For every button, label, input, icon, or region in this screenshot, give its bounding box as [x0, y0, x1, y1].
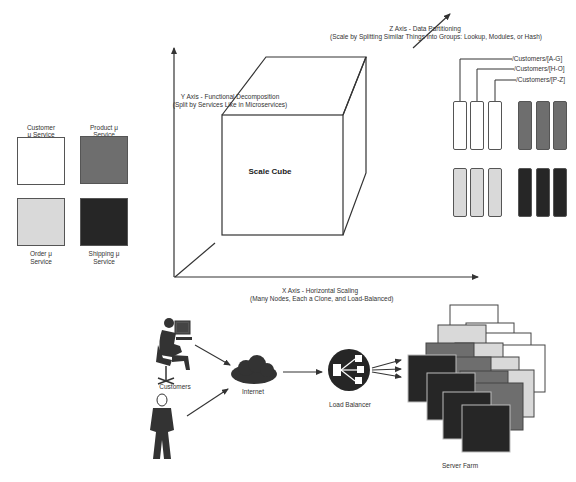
partition-label-a-g: /Customers/[A-G] [512, 55, 562, 63]
partition-bar-white-2 [470, 101, 484, 150]
load-balancer-label: Load Balancer [320, 401, 380, 409]
scale-cube-diagram: Y Axis - Functional Decomposition (Split… [0, 0, 576, 482]
partition-bar-dark-1 [518, 168, 532, 217]
partition-bar-light-1 [453, 168, 467, 217]
partition-bar-mid-3 [553, 101, 567, 150]
shipping-service-box [80, 198, 128, 246]
y-axis-subtitle: (Split by Services Like in Microservices… [170, 101, 290, 109]
order-service-label-1: Order μ [17, 250, 65, 258]
load-balancer-icon [328, 349, 370, 391]
order-service-label-2: Service [17, 258, 65, 266]
server-farm-label: Server Farm [430, 462, 490, 470]
x-axis-subtitle: (Many Nodes, Each a Clone, and Load-Bala… [250, 295, 390, 303]
customers-label: Customers [145, 383, 205, 391]
partition-connectors [460, 59, 516, 101]
scale-cube [222, 57, 366, 235]
product-service-box [80, 136, 128, 184]
internet-label: Internet [228, 388, 278, 396]
shipping-service-label-2: Service [80, 258, 128, 266]
order-service-box [17, 198, 65, 246]
standing-customer-icon [150, 394, 174, 459]
partition-bar-light-2 [470, 168, 484, 217]
partition-bar-white-1 [453, 101, 467, 150]
partition-bar-white-3 [488, 101, 502, 150]
partition-bar-dark-3 [553, 168, 567, 217]
cube-title: Scale Cube [240, 168, 300, 176]
z-axis-title: Z Axis - Data Partitioning [330, 25, 520, 33]
customer-service-box [17, 137, 65, 185]
seated-customer-icon [156, 318, 192, 384]
partition-label-h-o: /Customers/[H-O] [514, 65, 565, 73]
partition-label-p-z: /Customers/[P-Z] [516, 76, 565, 84]
internet-cloud-icon [231, 355, 277, 384]
x-axis-title: X Axis - Horizontal Scaling [250, 287, 390, 295]
partition-bar-mid-2 [536, 101, 550, 150]
shipping-service-label-1: Shipping μ [80, 250, 128, 258]
partition-bar-mid-1 [518, 101, 532, 150]
z-axis-origin-segment [175, 243, 215, 277]
y-axis-title: Y Axis - Functional Decomposition [170, 93, 290, 101]
z-axis-subtitle: (Scale by Splitting Similar Things into … [330, 33, 520, 41]
partition-bar-light-3 [488, 168, 502, 217]
partition-bar-dark-2 [536, 168, 550, 217]
server-farm-icon [408, 305, 545, 452]
